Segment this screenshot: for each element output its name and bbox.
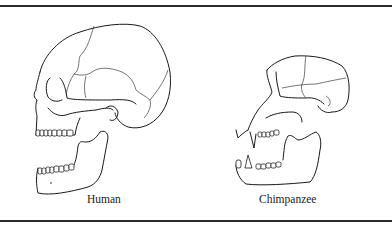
human-label: Human — [87, 193, 121, 205]
human-upper-teeth — [36, 130, 73, 136]
chimpanzee-lower-teeth — [236, 155, 281, 169]
skull-comparison-illustration — [0, 0, 392, 225]
chimpanzee-upper-teeth — [258, 130, 279, 137]
chimpanzee-skull-drawing — [236, 56, 349, 185]
human-skull-drawing — [34, 24, 170, 194]
human-lower-teeth — [38, 164, 74, 174]
chimpanzee-label: Chimpanzee — [259, 193, 316, 205]
